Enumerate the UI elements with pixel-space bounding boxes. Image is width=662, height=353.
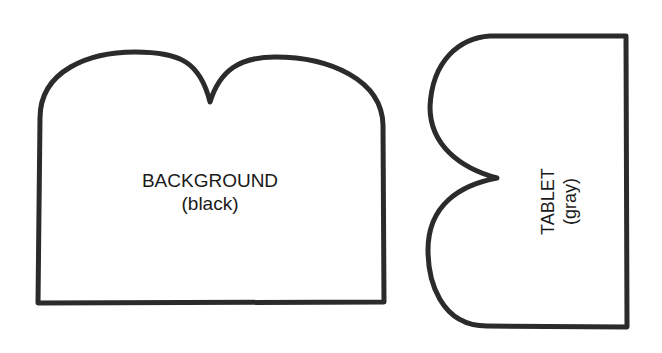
- tablet-subtitle: (gray): [560, 142, 582, 262]
- background-subtitle: (black): [130, 193, 290, 216]
- background-title: BACKGROUND: [130, 170, 290, 193]
- tablet-title: TABLET: [538, 142, 560, 262]
- background-label: BACKGROUND (black): [130, 170, 290, 216]
- template-canvas: BACKGROUND (black) TABLET (gray): [0, 0, 662, 353]
- tablet-label: TABLET (gray): [538, 142, 581, 262]
- tablet-shape-outline: [428, 36, 627, 327]
